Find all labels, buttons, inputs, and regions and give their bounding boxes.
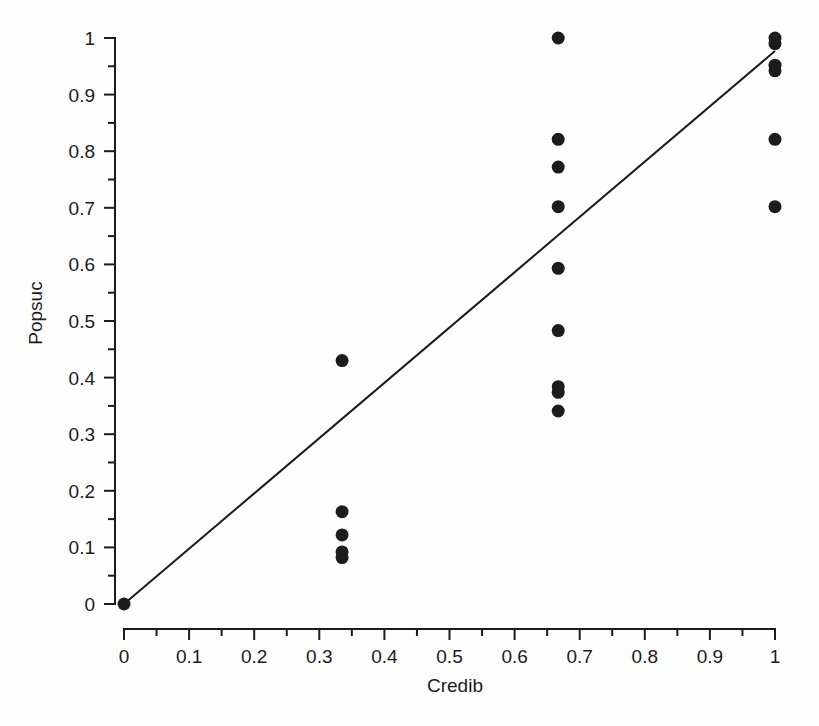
x-tick-label: 0.9 xyxy=(697,646,723,667)
y-tick-label: 1 xyxy=(84,28,95,49)
y-tick-label: 0.2 xyxy=(69,481,95,502)
data-point xyxy=(552,262,565,275)
y-tick-label: 0.4 xyxy=(69,368,96,389)
data-point xyxy=(552,324,565,337)
x-tick-label: 0.8 xyxy=(632,646,658,667)
x-tick-label: 0 xyxy=(119,646,130,667)
data-point xyxy=(769,133,782,146)
data-point xyxy=(552,386,565,399)
x-tick-label: 0.5 xyxy=(436,646,462,667)
x-tick-label: 0.7 xyxy=(566,646,592,667)
plot-canvas: 00.10.20.30.40.50.60.70.80.91 00.10.20.3… xyxy=(0,0,819,726)
y-axis-tick-labels: 00.10.20.30.40.50.60.70.80.91 xyxy=(69,28,96,615)
data-point xyxy=(769,64,782,77)
data-point xyxy=(552,200,565,213)
x-axis-tick-labels: 00.10.20.30.40.50.60.70.80.91 xyxy=(119,646,781,667)
data-point xyxy=(769,200,782,213)
data-point xyxy=(336,505,349,518)
y-tick-label: 0.1 xyxy=(69,537,95,558)
y-tick-label: 0.5 xyxy=(69,311,95,332)
data-point xyxy=(552,133,565,146)
data-point xyxy=(552,404,565,417)
data-point xyxy=(336,528,349,541)
x-tick-label: 0.1 xyxy=(176,646,202,667)
x-tick-label: 0.6 xyxy=(501,646,527,667)
x-tick-label: 0.2 xyxy=(241,646,267,667)
regression-line xyxy=(124,51,775,604)
y-tick-label: 0.6 xyxy=(69,254,95,275)
scatter-plot-figure: 00.10.20.30.40.50.60.70.80.91 00.10.20.3… xyxy=(0,0,819,726)
y-tick-label: 0.9 xyxy=(69,85,95,106)
data-point xyxy=(552,161,565,174)
data-point xyxy=(769,37,782,50)
data-point xyxy=(336,354,349,367)
data-point xyxy=(118,598,131,611)
x-axis-ticks xyxy=(124,629,775,640)
y-tick-label: 0 xyxy=(84,594,95,615)
x-tick-label: 1 xyxy=(770,646,781,667)
x-tick-label: 0.4 xyxy=(371,646,398,667)
y-axis-ticks xyxy=(104,38,115,604)
y-tick-label: 0.8 xyxy=(69,141,95,162)
y-axis-title: Popsuc xyxy=(25,281,46,344)
x-axis-title: Credib xyxy=(427,675,483,696)
y-tick-label: 0.3 xyxy=(69,424,95,445)
data-point xyxy=(336,551,349,564)
y-tick-label: 0.7 xyxy=(69,198,95,219)
data-point xyxy=(552,32,565,45)
x-tick-label: 0.3 xyxy=(306,646,332,667)
